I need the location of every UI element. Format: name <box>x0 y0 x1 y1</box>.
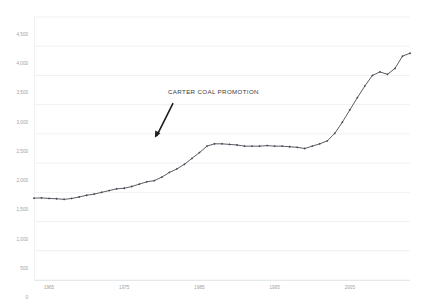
data-point-marker <box>138 183 140 185</box>
data-point-marker <box>228 143 230 145</box>
data-point-marker <box>266 144 268 146</box>
data-point-marker <box>33 197 35 199</box>
data-point-marker <box>48 197 50 199</box>
data-point-marker <box>55 198 57 200</box>
data-point-marker <box>251 145 253 147</box>
data-point-marker <box>123 187 125 189</box>
annotation-label: CARTER COAL PROMOTION <box>168 88 259 95</box>
annotation-arrow <box>155 104 173 138</box>
data-point-marker <box>243 145 245 147</box>
data-point-marker <box>236 144 238 146</box>
data-point-marker <box>221 143 223 145</box>
data-point-marker <box>296 146 298 148</box>
data-series-layer <box>0 0 430 302</box>
data-point-marker <box>131 185 133 187</box>
series-markers <box>33 52 411 200</box>
data-point-marker <box>93 193 95 195</box>
data-point-marker <box>319 143 321 145</box>
data-point-marker <box>304 147 306 149</box>
data-point-marker <box>40 197 42 199</box>
data-point-marker <box>116 188 118 190</box>
data-point-marker <box>311 145 313 147</box>
data-point-marker <box>281 145 283 147</box>
data-point-marker <box>146 181 148 183</box>
chart-page: 05001,0001,5002,0002,5003,0003,5004,0004… <box>0 0 430 302</box>
data-point-marker <box>213 143 215 145</box>
data-point-marker <box>108 189 110 191</box>
data-point-marker <box>289 146 291 148</box>
gridlines <box>34 17 410 280</box>
data-point-marker <box>85 194 87 196</box>
data-point-marker <box>78 196 80 198</box>
data-point-marker <box>70 197 72 199</box>
data-point-marker <box>409 52 411 54</box>
data-point-marker <box>258 145 260 147</box>
data-point-marker <box>101 191 103 193</box>
data-point-marker <box>63 198 65 200</box>
data-point-marker <box>273 145 275 147</box>
